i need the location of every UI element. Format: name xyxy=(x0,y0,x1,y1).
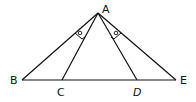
label-c: C xyxy=(57,86,65,99)
angle-circle-icon xyxy=(78,31,82,35)
segment-ae xyxy=(98,13,176,80)
label-a: A xyxy=(102,3,110,16)
label-b: B xyxy=(10,74,18,87)
angle-circle-icon xyxy=(114,31,118,35)
segment-ab xyxy=(22,13,98,80)
segment-ad xyxy=(98,13,137,80)
label-d: D xyxy=(133,86,141,99)
label-e: E xyxy=(180,74,187,87)
segment-ac xyxy=(62,13,98,80)
angle-mark-dae xyxy=(111,31,121,39)
geometry-diagram: A B C D E xyxy=(0,0,196,102)
